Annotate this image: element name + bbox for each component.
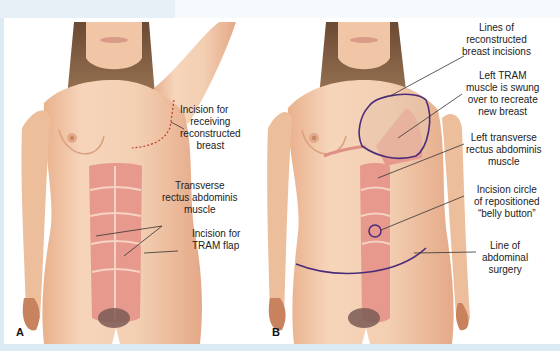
label-line: Lines of bbox=[462, 22, 531, 34]
label-left-transverse: Left transverse rectus abdominis muscle bbox=[466, 132, 542, 168]
label-lines-reconstructed: Lines of reconstructed breast incisions bbox=[462, 22, 531, 58]
label-line: Left TRAM bbox=[466, 70, 539, 82]
label-line: Line of bbox=[482, 240, 528, 252]
label-line: Transverse bbox=[162, 180, 238, 192]
label-line: Incision for bbox=[180, 104, 241, 116]
label-line: muscle bbox=[466, 156, 542, 168]
label-line: surgery bbox=[482, 264, 528, 276]
label-line: over to recreate bbox=[466, 94, 539, 106]
tram-flap-figure: Incision for receiving reconstructed bre… bbox=[4, 18, 560, 344]
label-line: receiving bbox=[180, 116, 241, 128]
label-line: abdominal bbox=[482, 252, 528, 264]
label-line: muscle is swung bbox=[466, 82, 539, 94]
label-line: muscle bbox=[162, 204, 238, 216]
label-incision-circle: Incision circle of repositioned “belly b… bbox=[474, 184, 540, 220]
label-line: breast bbox=[180, 140, 241, 152]
label-line: Left transverse bbox=[466, 132, 542, 144]
label-line: “belly button” bbox=[474, 208, 540, 220]
label-line: breast incisions bbox=[462, 46, 531, 58]
cropped-caption: · · · bbox=[375, 0, 397, 4]
label-line: of repositioned bbox=[474, 196, 540, 208]
label-line: TRAM flap bbox=[192, 240, 240, 252]
label-line: rectus abdominis bbox=[162, 192, 238, 204]
label-incision-tram-flap: Incision for TRAM flap bbox=[192, 228, 240, 252]
label-line: Incision circle bbox=[474, 184, 540, 196]
label-line-abdominal: Line of abdominal surgery bbox=[482, 240, 528, 276]
panel-b-figure bbox=[267, 22, 476, 344]
label-line: rectus abdominis bbox=[466, 144, 542, 156]
panel-letter-a: A bbox=[16, 326, 24, 338]
label-line: reconstructed bbox=[180, 128, 241, 140]
panel-letter-b: B bbox=[272, 326, 280, 338]
label-line: Incision for bbox=[192, 228, 240, 240]
cropped-caption-area: · · · bbox=[175, 0, 560, 18]
label-line: new breast bbox=[466, 106, 539, 118]
label-line: reconstructed bbox=[462, 34, 531, 46]
bottom-border bbox=[0, 344, 560, 351]
label-incision-receiving: Incision for receiving reconstructed bre… bbox=[180, 104, 241, 152]
label-left-tram-swung: Left TRAM muscle is swung over to recrea… bbox=[466, 70, 539, 118]
label-tram-muscle: Transverse rectus abdominis muscle bbox=[162, 180, 238, 216]
anatomy-illustration bbox=[4, 18, 560, 344]
